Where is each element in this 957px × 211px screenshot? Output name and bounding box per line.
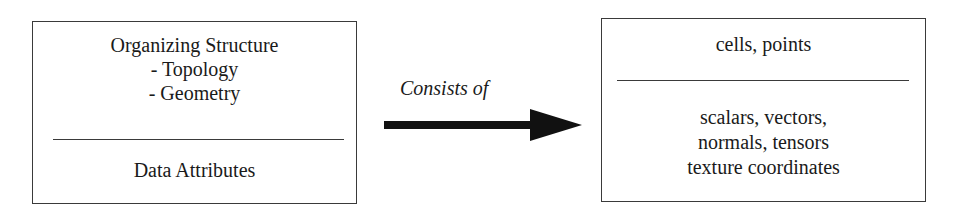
divider: [617, 80, 909, 81]
right-arrow-icon: [382, 106, 586, 144]
scalars-vectors-text: scalars, vectors,: [602, 105, 925, 129]
divider: [53, 139, 344, 140]
geometry-text: - Geometry: [33, 81, 356, 105]
components-box: cells, points scalars, vectors, normals,…: [601, 18, 926, 202]
normals-tensors-text: normals, tensors: [602, 130, 925, 154]
data-attributes-text: Data Attributes: [33, 158, 356, 182]
consists-of-label: Consists of: [400, 76, 488, 100]
texture-coordinates-text: texture coordinates: [602, 155, 925, 179]
topology-text: - Topology: [33, 57, 356, 81]
dataset-box: Organizing Structure - Topology - Geomet…: [32, 21, 357, 204]
cells-points-text: cells, points: [602, 32, 925, 56]
organizing-structure-text: Organizing Structure: [33, 33, 356, 57]
